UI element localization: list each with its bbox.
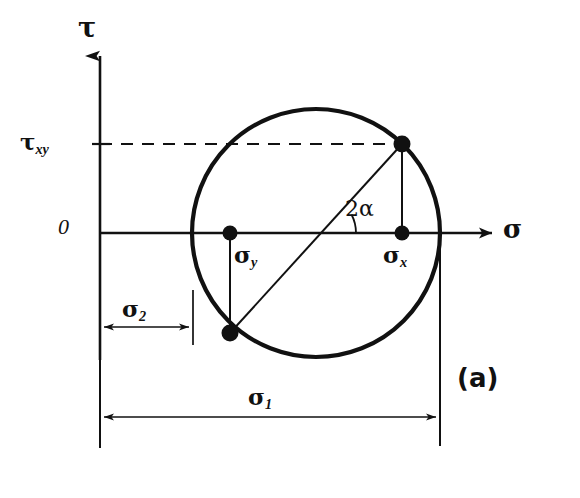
stress-point-x <box>394 136 411 153</box>
two-alpha-label: 2α <box>345 198 374 220</box>
diameter-line <box>230 144 402 333</box>
origin-label: 0 <box>58 216 69 238</box>
sigma-1-label: σ1 <box>248 385 272 411</box>
sigma-y-label: σy <box>234 243 257 269</box>
sigma-axis-label: σ <box>503 216 522 243</box>
figure-part-label: (a) <box>457 365 498 391</box>
stress-point-y <box>222 325 239 342</box>
tau-xy-label: τxy <box>20 130 49 156</box>
sigma-y-point <box>223 226 238 241</box>
sigma-2-label: σ2 <box>122 297 146 323</box>
mohr-circle-figure: τ τxy 0 σ σy σx 2α σ2 σ1 (a) <box>0 0 580 498</box>
sigma-x-label: σx <box>383 243 407 269</box>
mohr-circle-drawing <box>0 0 580 498</box>
axis-group <box>92 56 492 360</box>
sigma-x-point <box>395 226 410 241</box>
tau-axis-label: τ <box>78 14 96 42</box>
